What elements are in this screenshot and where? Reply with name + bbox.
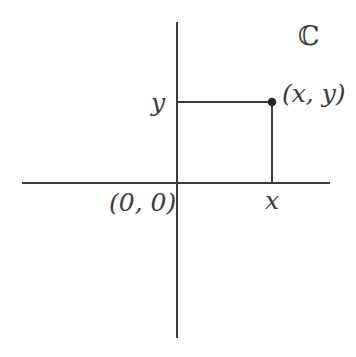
origin-coordinate-label: (0, 0) <box>109 190 176 215</box>
data-point-marker <box>268 98 277 107</box>
x-coordinate-label: x <box>265 188 279 213</box>
complex-plane-symbol-label: ℂ <box>298 22 320 49</box>
y-coordinate-label: y <box>151 90 165 115</box>
axes-and-lines-canvas <box>0 0 356 357</box>
point-coordinate-label: (x, y) <box>282 81 346 106</box>
complex-plane-figure: ℂ (x, y) y x (0, 0) <box>0 0 356 357</box>
